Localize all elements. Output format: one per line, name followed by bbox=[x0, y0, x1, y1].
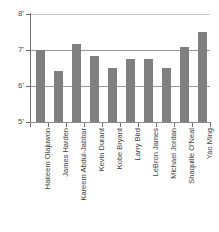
bar-shaquille-oneal bbox=[180, 47, 189, 122]
y-tick-label-8: 8' bbox=[2, 10, 24, 18]
x-label-kobe-bryant: Kobe Bryant bbox=[115, 128, 124, 169]
bar-kobe-bryant bbox=[108, 68, 117, 122]
bar-kevin-durant bbox=[90, 56, 99, 122]
x-tick-4 bbox=[102, 123, 103, 127]
x-tick-0 bbox=[30, 123, 31, 127]
x-label-james-harden: James Harden bbox=[61, 128, 70, 177]
x-label-shaquille-oneal: Shaquille O'Neal bbox=[187, 128, 196, 184]
bar-michael-jordan bbox=[162, 68, 171, 122]
x-tick-2 bbox=[66, 123, 67, 127]
x-label-kevin-durant: Kevin Durant bbox=[97, 128, 106, 171]
bar-yao-ming bbox=[198, 32, 207, 122]
x-tick-1 bbox=[48, 123, 49, 127]
x-tick-8 bbox=[174, 123, 175, 127]
x-tick-3 bbox=[84, 123, 85, 127]
x-label-larry-bird: Larry Bird bbox=[133, 128, 142, 161]
x-axis-labels: Hakeem Olajuwon James Harden Kareem Abdu… bbox=[30, 128, 211, 228]
x-label-hakeem-olajuwon: Hakeem Olajuwon bbox=[43, 128, 52, 189]
x-tick-5 bbox=[120, 123, 121, 127]
x-tick-7 bbox=[156, 123, 157, 127]
x-label-kareem-abdul-jabbar: Kareem Abdul-Jabbar bbox=[79, 128, 88, 201]
x-label-michael-jordan: Michael Jordan bbox=[169, 128, 178, 179]
bar-hakeem-olajuwon bbox=[36, 50, 45, 122]
y-tick-label-7: 7' bbox=[2, 46, 24, 54]
bar-larry-bird bbox=[126, 59, 135, 122]
x-tick-6 bbox=[138, 123, 139, 127]
y-tick-label-6: 6' bbox=[2, 82, 24, 90]
bar-james-harden bbox=[54, 71, 63, 122]
bars-group bbox=[30, 14, 210, 122]
y-tick-label-5: 5' bbox=[2, 118, 24, 126]
bar-chart: 8' 7' 6' 5' bbox=[0, 0, 219, 232]
y-axis-labels: 8' 7' 6' 5' bbox=[0, 0, 24, 232]
x-tick-10 bbox=[210, 123, 211, 127]
x-label-yao-ming: Yao Ming bbox=[205, 128, 214, 159]
bar-lebron-james bbox=[144, 59, 153, 122]
bar-kareem-abdul-jabbar bbox=[72, 44, 81, 122]
x-label-lebron-james: LeBron James bbox=[151, 128, 160, 176]
x-tick-9 bbox=[192, 123, 193, 127]
